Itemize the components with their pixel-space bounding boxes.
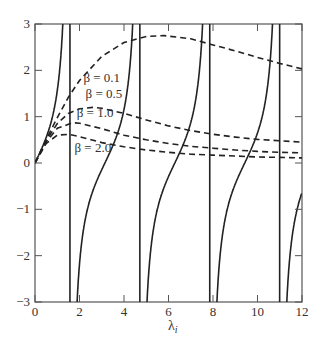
beta-label: β = 0.5	[86, 86, 123, 101]
x-axis-label: λi	[168, 318, 178, 335]
y-tick-label: −2	[16, 248, 30, 263]
tan-curve	[76, 0, 135, 344]
plot-frame	[35, 24, 302, 302]
x-tick-label: 0	[32, 304, 39, 319]
y-tick-label: −1	[16, 201, 30, 216]
beta-label: β = 1.0	[77, 105, 114, 120]
y-tick-label: 0	[24, 155, 31, 170]
y-tick-label: 2	[24, 62, 31, 77]
tan-curve	[145, 0, 204, 344]
x-tick-label: 12	[296, 304, 309, 319]
x-tick-label: 2	[76, 304, 83, 319]
beta-label: β = 0.1	[83, 70, 120, 85]
y-tick-label: −3	[16, 294, 30, 309]
y-tick-label: 1	[24, 109, 31, 124]
x-tick-label: 4	[121, 304, 128, 319]
x-tick-label: 8	[210, 304, 217, 319]
chart: β = 0.1β = 0.5β = 1.0β = 2.0 024681012−3…	[0, 0, 324, 351]
plot-border	[35, 24, 302, 302]
beta-label: β = 2.0	[74, 140, 111, 155]
tan-curve	[285, 193, 302, 343]
tan-curve	[215, 0, 274, 344]
y-tick-label: 3	[24, 16, 31, 31]
x-tick-label: 6	[165, 304, 172, 319]
x-tick-label: 10	[251, 304, 264, 319]
curves	[35, 0, 302, 344]
